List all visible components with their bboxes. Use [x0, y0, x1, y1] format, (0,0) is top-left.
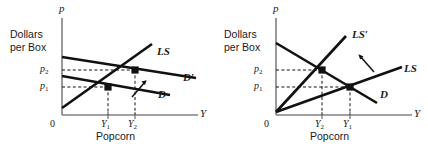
equilibrium-point-1	[104, 83, 111, 90]
y-axis-name-line2: per Box	[10, 41, 46, 53]
origin-label: 0	[50, 118, 55, 130]
panel-caption: Popcorn	[310, 130, 349, 142]
curve-d	[62, 76, 170, 95]
curve-label-d-prime-mark: ′	[191, 71, 194, 83]
quantity-label-y1: Y1	[343, 118, 352, 130]
panel-caption: Popcorn	[96, 130, 135, 142]
quantity-label-y1: Y1	[101, 118, 110, 130]
quantity-label-y2-symbol: Y	[128, 118, 134, 129]
equilibrium-point-2	[318, 66, 325, 73]
price-label-p2: p2	[40, 63, 49, 75]
panel-right-supply-shift: p Y Dollars per Box 0 p2 p1 Y2 Y1 LS′ LS…	[214, 0, 428, 150]
x-axis-symbol: Y	[414, 107, 420, 120]
y-axis-symbol: p	[273, 2, 279, 15]
curve-label-d-prime: D′	[183, 71, 194, 84]
price-label-p2-sub: 2	[45, 68, 49, 76]
panel-left-demand-shift: p Y Dollars per Box 0 p2 p1 Y1 Y2 LS D′ …	[0, 0, 214, 150]
quantity-label-y1-symbol: Y	[101, 118, 107, 129]
y-axis-name-line1: Dollars	[10, 28, 43, 40]
price-label-p2-sub: 2	[259, 68, 263, 76]
y-axis-name-line2: per Box	[224, 41, 260, 53]
curve-label-d-text: D	[158, 88, 166, 100]
curve-label-ls: LS	[157, 45, 170, 58]
quantity-label-y2: Y2	[128, 118, 137, 130]
price-label-p2: p2	[254, 63, 263, 75]
curve-label-ls-text: LS	[404, 62, 417, 74]
origin-label: 0	[264, 118, 269, 130]
curve-label-d: D	[380, 88, 388, 101]
quantity-label-y1-symbol: Y	[343, 118, 349, 129]
curve-label-d: D	[158, 88, 166, 101]
y-axis-name-line1: Dollars	[224, 28, 257, 40]
curve-label-ls-prime: LS′	[352, 28, 368, 41]
equilibrium-point-1	[346, 83, 353, 90]
curve-label-d-text: D	[380, 88, 388, 100]
supply-shift-arrow	[358, 54, 374, 72]
quantity-label-y2-symbol: Y	[315, 118, 321, 129]
curve-label-d-prime-text: D	[183, 71, 191, 83]
curve-label-ls-prime-text: LS	[352, 28, 365, 40]
curve-label-ls-prime-mark: ′	[365, 28, 368, 40]
x-axis-symbol: Y	[200, 107, 206, 120]
price-label-p1: p1	[40, 80, 49, 92]
curve-label-ls-text: LS	[157, 45, 170, 57]
equilibrium-point-2	[131, 66, 138, 73]
price-label-p1: p1	[254, 80, 263, 92]
y-axis-symbol: p	[59, 2, 65, 15]
supply-demand-figure: p Y Dollars per Box 0 p2 p1 Y1 Y2 LS D′ …	[0, 0, 428, 150]
curve-ls	[62, 44, 152, 108]
price-label-p1-sub: 1	[259, 85, 263, 93]
price-label-p1-sub: 1	[45, 85, 49, 93]
quantity-label-y2: Y2	[315, 118, 324, 130]
curve-label-ls: LS	[404, 62, 417, 75]
